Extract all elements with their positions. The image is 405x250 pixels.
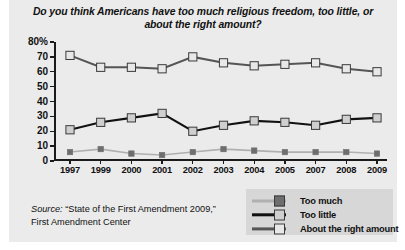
x-axis-label: 2000 (121, 165, 141, 175)
legend-label: About the right amount (300, 224, 398, 234)
legend-marker-swatch (274, 224, 285, 235)
data-point-marker (312, 59, 320, 67)
data-point-marker (66, 126, 74, 134)
x-axis-label: 2004 (244, 165, 264, 175)
y-axis-label: 80% (28, 37, 48, 47)
y-axis-label: 10 (37, 141, 48, 151)
data-point-marker (313, 149, 318, 154)
data-point-marker (219, 121, 227, 129)
legend-marker-swatch (274, 210, 285, 221)
y-axis-label: 40 (37, 97, 48, 107)
data-point-marker (97, 118, 105, 126)
y-axis-label: 70 (37, 52, 48, 62)
source-prefix: Source: (31, 204, 63, 214)
y-axis-label: 60 (37, 67, 48, 77)
y-axis-label: 20 (37, 126, 48, 136)
series-lines (54, 42, 387, 163)
source-note: Source: “State of the First Amendment 20… (31, 203, 221, 228)
x-axis-label: 1997 (60, 165, 80, 175)
plot-area: 80%706050403020100 199719992000200120022… (54, 42, 387, 161)
data-point-marker (129, 151, 134, 156)
data-point-marker (66, 51, 74, 59)
data-point-marker (159, 152, 164, 157)
data-point-marker (373, 114, 381, 122)
x-axis-label: 2009 (367, 165, 387, 175)
data-point-marker (250, 62, 258, 70)
x-axis-label: 2005 (275, 165, 295, 175)
data-point-marker (127, 114, 135, 122)
data-point-marker (252, 148, 257, 153)
data-point-marker (221, 146, 226, 151)
chart-legend: Too muchToo littleAbout the right amount (246, 189, 393, 235)
data-point-marker (281, 118, 289, 126)
data-point-marker (312, 121, 320, 129)
data-point-marker (374, 151, 379, 156)
data-point-marker (189, 53, 197, 61)
source-line-2: First Amendment Center (31, 217, 131, 227)
data-point-marker (98, 146, 103, 151)
data-point-marker (373, 68, 381, 76)
data-point-marker (189, 127, 197, 135)
data-point-marker (127, 63, 135, 71)
legend-label: Too much (300, 196, 342, 206)
data-point-marker (158, 65, 166, 73)
x-axis-label: 2007 (306, 165, 326, 175)
source-line-1: “State of the First Amendment 2009,” (63, 204, 216, 214)
data-point-marker (282, 149, 287, 154)
chart-title: Do you think Americans have too much rel… (27, 5, 379, 31)
data-point-marker (344, 149, 349, 154)
data-point-marker (190, 149, 195, 154)
legend-label: Too little (300, 210, 336, 220)
legend-item: Too little (252, 208, 392, 222)
y-axis-label: 0 (42, 156, 48, 166)
legend-item: About the right amount (252, 222, 392, 236)
y-axis-label: 30 (37, 111, 48, 121)
x-axis-label: 2003 (214, 165, 234, 175)
x-axis-label: 2001 (152, 165, 172, 175)
legend-marker-swatch (274, 196, 285, 207)
x-axis-label: 1999 (91, 165, 111, 175)
data-point-marker (158, 109, 166, 117)
data-point-marker (342, 115, 350, 123)
y-axis-label: 50 (37, 82, 48, 92)
data-point-marker (250, 117, 258, 125)
data-point-marker (281, 60, 289, 68)
x-axis-label: 2002 (183, 165, 203, 175)
data-point-marker (67, 149, 72, 154)
legend-item: Too much (252, 194, 392, 208)
data-point-marker (342, 65, 350, 73)
data-point-marker (97, 63, 105, 71)
data-point-marker (219, 59, 227, 67)
x-axis-label: 2008 (336, 165, 356, 175)
chart-figure: Do you think Americans have too much rel… (9, 0, 397, 242)
